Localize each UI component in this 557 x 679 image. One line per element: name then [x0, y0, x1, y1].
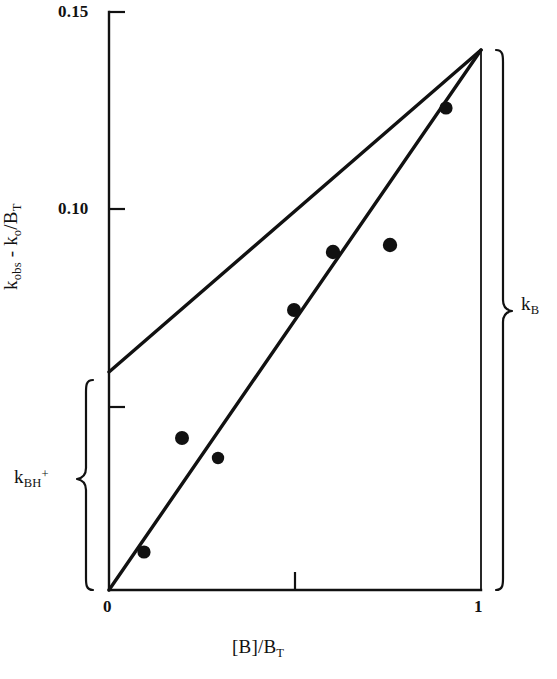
y-axis-ko-subscript: o — [10, 230, 24, 236]
data-point — [212, 452, 224, 464]
x-axis-title: [B]/BT — [232, 636, 284, 658]
y-axis-kobs-subscript: obs — [10, 262, 24, 280]
x-tick-label-zero: 0 — [103, 597, 112, 617]
axis-ticks — [109, 12, 295, 590]
y-axis-title: kobs - ko/BT — [0, 60, 22, 290]
plot-canvas — [0, 0, 557, 679]
data-point — [137, 545, 150, 558]
chart-figure: 0.15 0.10 0 1 [B]/BT kobs - ko/BT kB kBH… — [0, 0, 557, 679]
kbh-subscript: BH — [24, 476, 42, 490]
right-brace-label: kB — [521, 293, 539, 315]
kbh-lead: k — [14, 466, 24, 487]
y-axis-slash-b: /B — [0, 211, 21, 229]
right-brace — [496, 50, 512, 590]
y-axis-ko: k — [0, 236, 21, 246]
y-axis-bt-subscript: T — [10, 203, 24, 211]
left-brace — [77, 380, 93, 590]
left-brace-label: kBH+ — [14, 466, 49, 488]
y-axis-minus: - — [0, 246, 21, 262]
data-points — [137, 101, 452, 558]
x-axis-title-subscript: T — [276, 646, 284, 660]
x-axis-title-lead: [B]/B — [232, 636, 276, 657]
y-axis-kobs: k — [0, 280, 21, 290]
data-point — [287, 303, 301, 317]
kb-subscript: B — [531, 303, 540, 317]
data-point — [383, 238, 397, 252]
kb-lead: k — [521, 293, 531, 314]
x-tick-label-one: 1 — [474, 597, 483, 617]
fit-lines — [109, 50, 481, 590]
data-point — [439, 101, 452, 114]
y-tick-label-top: 0.15 — [58, 2, 89, 22]
y-tick-label-mid: 0.10 — [58, 199, 89, 219]
data-point — [175, 431, 189, 445]
lower-fit-line — [109, 50, 481, 590]
upper-fit-line — [109, 50, 481, 372]
kbh-superscript: + — [42, 467, 49, 481]
data-point — [326, 245, 340, 259]
